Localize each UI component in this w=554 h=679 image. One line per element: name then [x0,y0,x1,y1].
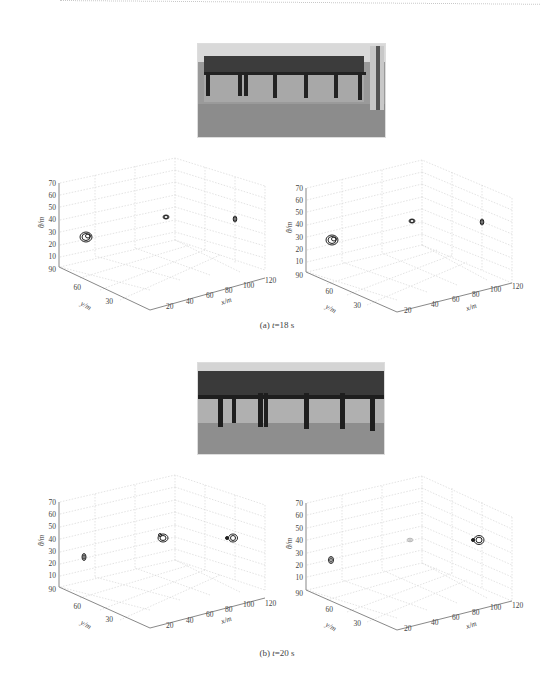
caption-panel-b: (b) t=20 s [0,648,554,658]
svg-text:y/m: y/m [323,619,338,633]
plot-3d-b-right: 70 60 50 40 30 20 10 90 60 30 θ/m y/m 20… [0,0,554,679]
svg-text:40: 40 [431,618,439,627]
svg-text:70: 70 [296,499,304,508]
svg-text:20: 20 [404,624,412,633]
svg-text:80: 80 [472,608,480,617]
svg-text:60: 60 [326,605,334,614]
svg-text:100: 100 [490,603,502,612]
svg-text:10: 10 [296,573,304,582]
svg-text:x/m: x/m [464,619,479,632]
svg-text:90: 90 [296,589,304,598]
svg-text:50: 50 [296,524,304,533]
svg-text:θ/m: θ/m [285,537,294,549]
svg-text:40: 40 [296,536,304,545]
svg-text:30: 30 [296,549,304,558]
svg-text:30: 30 [354,619,362,628]
svg-text:60: 60 [452,613,460,622]
svg-text:20: 20 [296,561,304,570]
svg-text:60: 60 [296,511,304,520]
svg-text:120: 120 [512,601,524,610]
